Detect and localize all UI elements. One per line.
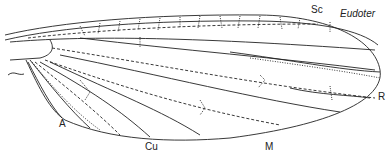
- vein-m5: [50, 62, 200, 135]
- vein-m3: [290, 88, 370, 98]
- costal-margin: [5, 21, 378, 45]
- vein-a3: [32, 62, 100, 130]
- wing-base: [8, 73, 24, 75]
- label-sc: Sc: [311, 4, 323, 15]
- vein-cu1: [40, 62, 150, 137]
- wing-drawing: [0, 0, 391, 160]
- vein-sc: [28, 24, 318, 38]
- vein-rs: [80, 38, 375, 70]
- humeral-arc: [10, 40, 52, 60]
- label-a: A: [59, 118, 66, 129]
- vein-m1: [52, 48, 375, 98]
- vein-m2: [60, 55, 340, 112]
- label-r: R: [378, 91, 385, 102]
- label-cu: Cu: [145, 141, 158, 152]
- vein-r1: [10, 38, 375, 50]
- figure-title: Eudoter: [340, 8, 375, 19]
- vein-m4: [45, 60, 280, 125]
- crossveins: [80, 16, 332, 115]
- label-m: M: [265, 141, 273, 152]
